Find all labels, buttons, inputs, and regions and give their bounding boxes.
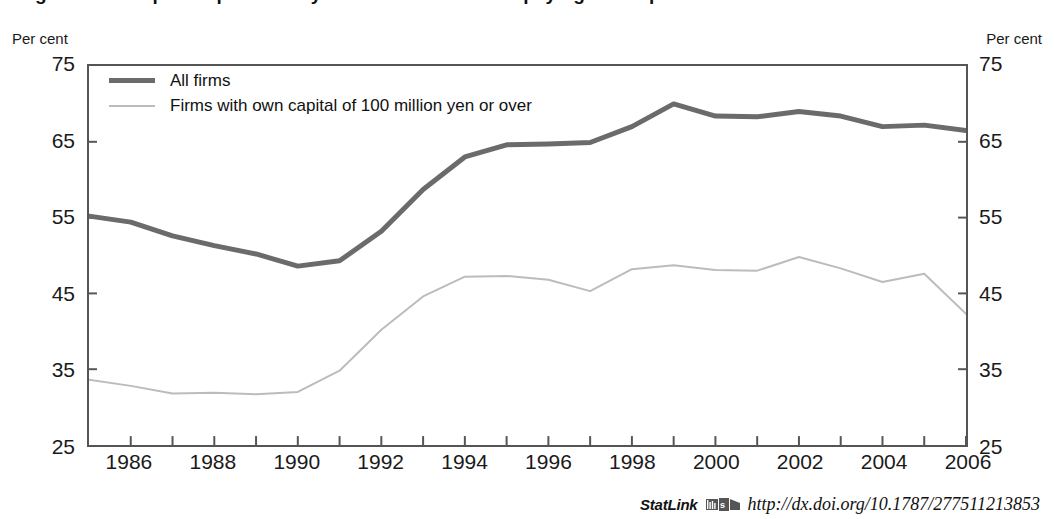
y-tick-label-left-35: 35 — [52, 358, 75, 382]
statlink-url: http://dx.doi.org/10.1787/277511213853 — [748, 494, 1041, 515]
y-axis-unit-left: Per cent — [12, 30, 68, 47]
x-tick-label-1988: 1988 — [189, 450, 236, 474]
svg-text:s: s — [720, 500, 725, 510]
x-tick-label-2000: 2000 — [693, 450, 740, 474]
plot-area — [87, 64, 968, 447]
legend-label-all-firms: All firms — [170, 71, 230, 91]
x-tick-label-1992: 1992 — [357, 450, 404, 474]
y-tick-label-left-45: 45 — [52, 282, 75, 306]
y-tick-label-right-55: 55 — [979, 205, 1002, 229]
series-line-large-firms — [89, 257, 966, 394]
x-tick-label-1986: 1986 — [106, 450, 153, 474]
statlink-glyph-icon: s — [706, 497, 740, 512]
x-tick-label-2006: 2006 — [945, 450, 992, 474]
x-tick-label-1994: 1994 — [441, 450, 488, 474]
legend-item-all-firms: All firms — [108, 68, 578, 93]
x-tick-label-2002: 2002 — [777, 450, 824, 474]
legend-swatch-all-firms-icon — [108, 78, 156, 83]
legend-swatch-large-firms-icon — [108, 105, 156, 107]
x-tick-label-2004: 2004 — [861, 450, 908, 474]
statlink-footer: StatLink s http://dx.doi.org/10.1787/277… — [640, 494, 1040, 515]
x-tick-label-1998: 1998 — [609, 450, 656, 474]
legend-label-large-firms: Firms with own capital of 100 million ye… — [170, 96, 532, 116]
y-tick-label-left-55: 55 — [52, 205, 75, 229]
x-tick-label-1990: 1990 — [273, 450, 320, 474]
statlink-word: StatLink — [640, 496, 698, 513]
legend-item-large-firms: Firms with own capital of 100 million ye… — [108, 93, 578, 118]
y-tick-label-right-65: 65 — [979, 129, 1002, 153]
y-tick-label-right-75: 75 — [979, 52, 1002, 76]
y-tick-label-right-45: 45 — [979, 282, 1002, 306]
series-line-all-firms — [89, 104, 966, 266]
y-tick-label-left-65: 65 — [52, 129, 75, 153]
chart-svg — [89, 66, 966, 445]
x-tick-label-1996: 1996 — [525, 450, 572, 474]
y-tick-label-right-35: 35 — [979, 358, 1002, 382]
figure-title: Figure 1.9. Corporate profitability and … — [18, 0, 813, 5]
y-tick-label-left-75: 75 — [52, 52, 75, 76]
y-tick-label-left-25: 25 — [52, 435, 75, 459]
chart-legend: All firms Firms with own capital of 100 … — [108, 68, 578, 118]
statlink-icon: s — [706, 497, 740, 512]
y-axis-unit-right: Per cent — [986, 30, 1042, 47]
